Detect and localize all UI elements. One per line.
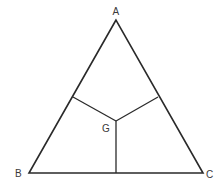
label-a: A [113,6,120,17]
diagram-canvas: A B C G [0,0,223,191]
label-c: C [206,169,213,180]
label-g: G [102,123,110,134]
segment-g-to-ac [116,97,158,121]
segment-g-to-ab [73,97,116,121]
triangle-diagram: A B C G [0,0,223,191]
label-b: B [15,168,22,179]
